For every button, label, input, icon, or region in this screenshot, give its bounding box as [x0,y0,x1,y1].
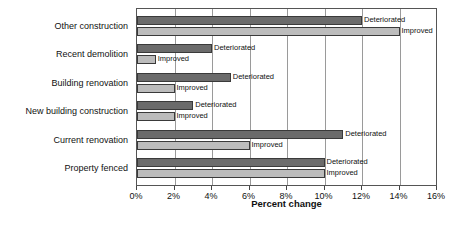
bar-group-other-construction: Deteriorated Improved [137,16,436,38]
category-label-other-construction: Other construction [54,21,128,31]
bar-deteriorated[interactable] [137,16,362,25]
category-axis: Other construction Recent demolition Bui… [0,8,132,186]
bar-row-improved: Improved [137,55,436,64]
bar-row-deteriorated: Deteriorated [137,16,436,25]
category-label-current-renovation: Current renovation [53,135,128,145]
bar-row-improved: Improved [137,141,436,150]
bar-improved[interactable] [137,27,400,36]
bar-row-improved: Improved [137,169,436,178]
bars-layer: Deteriorated Improved Deteriorated Impro… [137,9,436,185]
bar-row-deteriorated: Deteriorated [137,158,436,167]
bar-group-recent-demolition: Deteriorated Improved [137,44,436,66]
bar-row-deteriorated: Deteriorated [137,101,436,110]
bar-deteriorated[interactable] [137,130,343,139]
x-axis-title: Percent change [136,198,437,209]
tick-mark-8 [286,186,287,190]
bar-chart-figure: Other construction Recent demolition Bui… [0,0,453,230]
plot-area: Deteriorated Improved Deteriorated Impro… [136,8,437,186]
bar-label-deteriorated: Deteriorated [343,129,386,139]
category-label-property-fenced: Property fenced [64,163,128,173]
category-label-new-building-construction: New building construction [25,106,128,116]
bar-improved[interactable] [137,112,175,121]
tick-mark-12 [361,186,362,190]
tick-mark-4 [211,186,212,190]
tick-mark-14 [399,186,400,190]
bar-improved[interactable] [137,55,156,64]
bar-row-deteriorated: Deteriorated [137,73,436,82]
bar-row-improved: Improved [137,84,436,93]
bar-label-improved: Improved [400,26,433,36]
bar-label-deteriorated: Deteriorated [231,72,274,82]
bar-label-deteriorated: Deteriorated [362,15,405,25]
bar-label-improved: Improved [175,83,208,93]
tick-mark-10 [324,186,325,190]
bar-label-deteriorated: Deteriorated [193,100,236,110]
bar-label-deteriorated: Deteriorated [325,157,368,167]
bar-label-deteriorated: Deteriorated [212,43,255,53]
bar-improved[interactable] [137,84,175,93]
tick-mark-0 [136,186,137,190]
bar-improved[interactable] [137,141,250,150]
bar-deteriorated[interactable] [137,101,193,110]
bar-row-deteriorated: Deteriorated [137,44,436,53]
bar-group-building-renovation: Deteriorated Improved [137,73,436,95]
bar-row-improved: Improved [137,27,436,36]
category-label-building-renovation: Building renovation [51,78,128,88]
bar-improved[interactable] [137,169,325,178]
bar-label-improved: Improved [156,54,189,64]
bar-row-improved: Improved [137,112,436,121]
bar-group-current-renovation: Deteriorated Improved [137,130,436,152]
bar-deteriorated[interactable] [137,44,212,53]
tick-mark-16 [436,186,437,190]
tick-mark-6 [249,186,250,190]
bar-label-improved: Improved [250,140,283,150]
bar-row-deteriorated: Deteriorated [137,130,436,139]
tick-mark-2 [174,186,175,190]
bar-deteriorated[interactable] [137,73,231,82]
bar-group-new-building-construction: Deteriorated Improved [137,101,436,123]
bar-group-property-fenced: Deteriorated Improved [137,158,436,180]
category-label-recent-demolition: Recent demolition [56,49,128,59]
bar-label-improved: Improved [175,111,208,121]
bar-deteriorated[interactable] [137,158,325,167]
bar-label-improved: Improved [325,168,358,178]
